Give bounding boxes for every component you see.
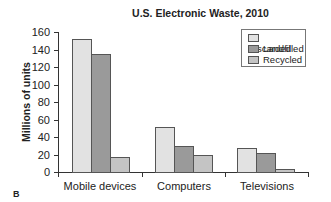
y-tick-label: 60 [38,114,50,126]
y-tick [54,102,58,103]
y-tick [54,120,58,121]
x-tick [142,172,143,177]
y-tick [54,155,58,156]
legend-swatch [248,45,259,53]
y-tick-label: 0 [44,166,50,178]
x-tick-label: Mobile devices [55,180,145,192]
x-tick [308,172,309,177]
y-axis [58,32,59,173]
bar-recycled [275,169,295,174]
y-tick-label: 40 [38,131,50,143]
legend-swatch [248,56,259,64]
bar-landfilled [174,146,194,173]
legend-label: Landfilled [263,43,304,54]
y-tick [54,50,58,51]
bar-discarded [72,39,92,173]
y-tick [54,32,58,33]
bar-recycled [193,155,213,173]
chart-title: U.S. Electronic Waste, 2010 [0,7,331,19]
legend-item-discarded: Discarded [248,32,305,43]
legend: Discarded Landfilled Recycled [241,29,306,67]
y-tick-label: 120 [32,61,50,73]
bar-discarded [237,148,257,173]
x-tick [225,172,226,177]
x-tick [58,172,59,177]
legend-label: Recycled [263,54,302,65]
x-tick-label: Televisions [222,180,312,192]
y-tick-label: 140 [32,44,50,56]
x-tick-label: Computers [139,180,229,192]
bar-discarded [155,127,175,173]
y-axis-label: Millions of units [20,62,32,142]
y-tick-label: 160 [32,26,50,38]
y-tick-label: 20 [38,149,50,161]
y-tick-label: 100 [32,79,50,91]
y-tick-label: 80 [38,96,50,108]
legend-swatch [248,34,259,42]
legend-item-landfilled: Landfilled [248,43,304,54]
y-tick [54,67,58,68]
bar-recycled [110,157,130,173]
bar-landfilled [91,54,111,173]
bar-landfilled [256,153,276,173]
y-tick [54,85,58,86]
legend-item-recycled: Recycled [248,54,302,65]
y-tick [54,137,58,138]
panel-label: B [13,189,20,199]
